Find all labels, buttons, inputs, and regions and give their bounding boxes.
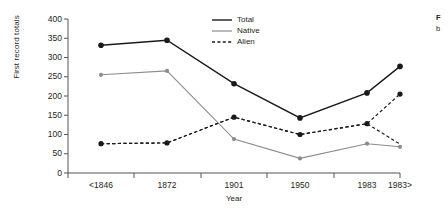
legend-entry-total: Total bbox=[212, 14, 296, 25]
legend-entry-native: Native bbox=[212, 25, 296, 36]
x-tick-label: 1950 bbox=[265, 180, 335, 190]
x-axis-ticks bbox=[68, 173, 400, 178]
figure-container: First record totals 400 350 300 250 200 … bbox=[0, 0, 448, 223]
legend-entry-alien: Alien bbox=[212, 36, 296, 47]
x-axis-title: Year bbox=[68, 194, 400, 204]
x-tick-label: 1983> bbox=[365, 180, 435, 190]
series-native bbox=[99, 69, 402, 161]
series-total bbox=[98, 37, 403, 120]
legend-line-solid-black-icon bbox=[212, 16, 232, 24]
legend-label-total: Total bbox=[237, 15, 254, 24]
legend-line-solid-gray-icon bbox=[212, 27, 232, 35]
caption-fragment: F b bbox=[436, 12, 448, 34]
caption-fragment-line-1: F bbox=[436, 12, 448, 23]
legend-label-native: Native bbox=[237, 26, 260, 35]
x-axis-tick-labels: <1846 1872 1901 1950 1983 1983> bbox=[68, 180, 400, 194]
x-tick-label: 1901 bbox=[199, 180, 269, 190]
y-axis-ticks bbox=[64, 19, 68, 173]
legend-label-alien: Alien bbox=[237, 37, 255, 46]
legend-line-dashed-black-icon bbox=[212, 38, 232, 46]
caption-fragment-line-2: b bbox=[436, 23, 448, 34]
x-tick-label: <1846 bbox=[66, 180, 136, 190]
x-tick-label: 1872 bbox=[132, 180, 202, 190]
chart-legend: Total Native Alien bbox=[212, 14, 296, 47]
series-alien bbox=[98, 92, 402, 147]
